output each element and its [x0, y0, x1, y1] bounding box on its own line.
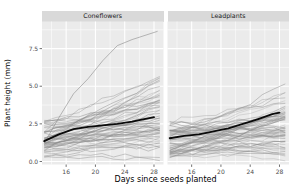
x-tick-label: 20: [92, 168, 100, 175]
x-tick-label: 24: [121, 168, 129, 175]
y-tick-label: 5.0: [29, 82, 39, 89]
y-tick-label: 2.5: [29, 120, 39, 127]
x-tick-label: 28: [276, 168, 284, 175]
x-tick-label: 16: [188, 168, 196, 175]
x-tick-label: 16: [62, 168, 70, 175]
y-axis-title: Plant height (mm): [3, 59, 12, 127]
x-axis-title: Days since seeds planted: [40, 175, 291, 184]
x-tick-label: 28: [150, 168, 158, 175]
x-tick-label: 20: [217, 168, 225, 175]
x-tick-label: 24: [246, 168, 254, 175]
y-tick-label: 7.5: [29, 45, 39, 52]
plot-canvas: 16202428162024280.02.55.07.5: [0, 0, 292, 194]
faceted-line-chart: Coneflowers Leadplants 16202428162024280…: [0, 0, 292, 194]
y-tick-label: 0.0: [29, 158, 39, 165]
